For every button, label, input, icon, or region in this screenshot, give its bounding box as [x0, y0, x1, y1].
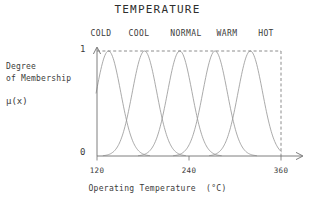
- plot-area: [0, 0, 315, 209]
- membership-curve-warm: [173, 51, 256, 156]
- membership-curve-cold: [96, 51, 150, 156]
- membership-curves: [96, 51, 282, 156]
- axes: [93, 47, 303, 161]
- membership-curve-hot: [209, 51, 281, 156]
- membership-curve-normal: [138, 51, 221, 156]
- fuzzy-membership-chart: TEMPERATURE COLD COOL NORMAL WARM HOT De…: [0, 0, 315, 209]
